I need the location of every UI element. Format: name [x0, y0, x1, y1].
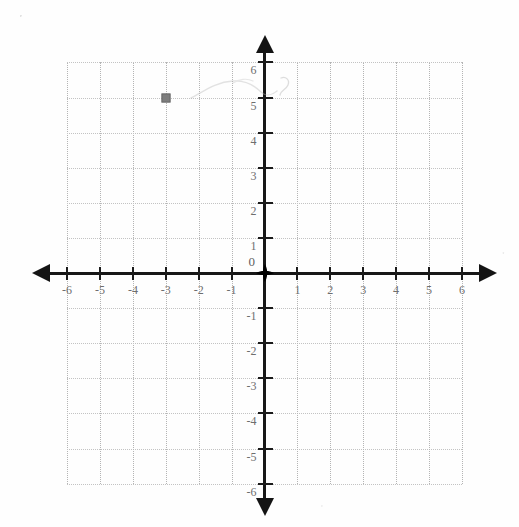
x-axis-tick-label: 2 — [327, 284, 333, 296]
y-axis-tick — [258, 377, 273, 379]
y-axis-tick — [258, 483, 273, 485]
plotted-point-marker[interactable] — [161, 93, 170, 102]
x-axis-tick — [362, 267, 364, 280]
x-axis-right-arrow-icon — [479, 264, 497, 282]
x-axis-tick-label: -6 — [62, 284, 72, 296]
y-axis-tick — [258, 307, 273, 309]
y-axis-up-arrow-icon — [256, 35, 274, 53]
y-axis-tick-label: 1 — [233, 240, 257, 252]
x-axis-tick — [296, 267, 298, 280]
y-axis-down-arrow-icon — [256, 498, 274, 516]
y-axis-tick — [258, 61, 273, 63]
y-axis-tick-label: -2 — [233, 345, 257, 357]
x-axis-tick — [66, 267, 68, 280]
y-axis-tick — [258, 237, 273, 239]
x-axis-tick-label: -3 — [161, 284, 171, 296]
y-axis-tick — [258, 167, 273, 169]
x-axis-tick-label: 3 — [360, 284, 366, 296]
y-axis-tick-label: -3 — [233, 380, 257, 392]
x-axis-tick — [329, 267, 331, 280]
y-axis-tick — [258, 132, 273, 134]
x-axis-tick — [428, 267, 430, 280]
x-axis-tick — [165, 267, 167, 280]
x-axis-left-arrow-icon — [32, 264, 50, 282]
y-axis-tick-label: -6 — [233, 486, 257, 498]
x-axis-tick — [132, 267, 134, 280]
y-axis-tick-label: 4 — [233, 135, 257, 147]
origin-marker — [252, 260, 278, 286]
y-axis-tick-label: -4 — [233, 415, 257, 427]
y-axis-tick-label: 6 — [233, 64, 257, 76]
x-axis-tick-label: 4 — [393, 284, 399, 296]
x-axis-tick-label: -4 — [128, 284, 138, 296]
y-axis-tick — [258, 412, 273, 414]
x-axis-tick — [99, 267, 101, 280]
origin-label: 0 — [249, 255, 256, 268]
x-axis-tick-label: 5 — [426, 284, 432, 296]
y-axis-tick — [258, 97, 273, 99]
y-axis-tick — [258, 342, 273, 344]
x-axis-tick — [461, 267, 463, 280]
coordinate-plane: -6-5-4-3-2-1123456654321-1-2-3-4-5-6 0 — [0, 0, 519, 527]
x-axis-tick — [395, 267, 397, 280]
y-axis-tick-label: -5 — [233, 451, 257, 463]
y-axis-tick-label: 5 — [233, 100, 257, 112]
x-axis-tick-label: -1 — [227, 284, 237, 296]
y-axis-tick — [258, 202, 273, 204]
x-axis-tick-label: 6 — [459, 284, 465, 296]
x-axis-tick — [198, 267, 200, 280]
x-axis-tick — [231, 267, 233, 280]
x-axis-tick-label: 1 — [294, 284, 300, 296]
y-axis-tick-label: 3 — [233, 170, 257, 182]
y-axis-tick — [258, 448, 273, 450]
x-axis-tick-label: -5 — [95, 284, 105, 296]
y-axis-tick-label: -1 — [233, 310, 257, 322]
x-axis-tick-label: -2 — [194, 284, 204, 296]
y-axis-tick-label: 2 — [233, 205, 257, 217]
